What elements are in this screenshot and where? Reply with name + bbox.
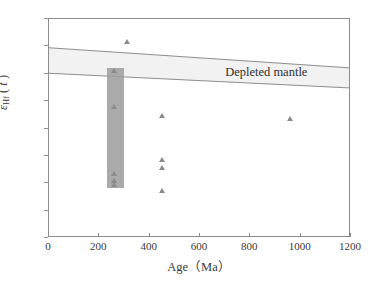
y-axis-title-symbol: ε bbox=[0, 105, 10, 110]
y-axis-tick-labels: −20−15−10−505101520 bbox=[0, 0, 374, 282]
figure-canvas: Depleted mantle 020040060080010001200 −2… bbox=[0, 0, 374, 282]
y-axis-title-subscript: Hf bbox=[1, 96, 11, 105]
y-axis-title-variable: t bbox=[0, 82, 10, 85]
x-axis-title: Age（Ma） bbox=[48, 256, 350, 275]
y-axis-title: εHf ( t ) bbox=[0, 75, 11, 110]
y-axis-title-paren-close: ) bbox=[0, 75, 10, 79]
y-axis-title-paren-open: ( bbox=[0, 89, 10, 93]
